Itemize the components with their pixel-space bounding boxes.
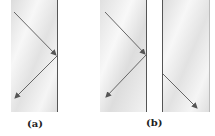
glass-block-b-left (100, 0, 146, 112)
glass-block-b-right (162, 0, 209, 112)
diagram-canvas (0, 0, 215, 136)
panel-b (100, 0, 210, 112)
figure: (a) (b) (0, 0, 215, 136)
panel-label-a: (a) (27, 118, 43, 129)
panel-label-b: (b) (146, 117, 162, 128)
panel-a (11, 0, 58, 112)
